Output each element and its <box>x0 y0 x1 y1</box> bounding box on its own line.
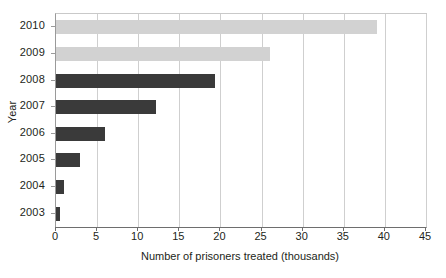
bar-row <box>56 174 426 201</box>
bar-2006 <box>56 127 105 141</box>
bar-2010 <box>56 20 377 34</box>
y-tick-label-2008: 2008 <box>20 73 45 85</box>
x-tick-label-10: 10 <box>131 230 143 242</box>
bar-2005 <box>56 153 80 167</box>
x-tick-label-15: 15 <box>172 230 184 242</box>
y-tick-label-2010: 2010 <box>20 19 45 31</box>
x-tick-label-35: 35 <box>337 230 349 242</box>
x-tick-label-0: 0 <box>52 230 58 242</box>
bar-2003 <box>56 207 60 221</box>
x-axis-title: Number of prisoners treated (thousands) <box>55 250 425 262</box>
y-tick-mark-2004 <box>51 186 55 187</box>
x-tick-label-20: 20 <box>213 230 225 242</box>
x-axis-tick-labels: 051015202530354045 <box>55 230 425 246</box>
y-tick-label-2004: 2004 <box>20 179 45 191</box>
bar-row <box>56 200 426 227</box>
x-tick-label-5: 5 <box>93 230 99 242</box>
y-tick-mark-2006 <box>51 133 55 134</box>
y-tick-label-2006: 2006 <box>20 126 45 138</box>
y-tick-mark-2005 <box>51 159 55 160</box>
y-tick-mark-2009 <box>51 53 55 54</box>
bar-row <box>56 67 426 94</box>
x-tick-label-40: 40 <box>378 230 390 242</box>
y-tick-label-2003: 2003 <box>20 206 45 218</box>
bar-row <box>56 121 426 148</box>
bar-row <box>56 14 426 41</box>
y-tick-label-2005: 2005 <box>20 152 45 164</box>
y-tick-label-2009: 2009 <box>20 46 45 58</box>
bar-chart-figure: 20102009200820072006200520042003 Year 05… <box>0 0 446 278</box>
bar-row <box>56 94 426 121</box>
x-tick-label-45: 45 <box>419 230 431 242</box>
bar-2004 <box>56 180 64 194</box>
y-tick-mark-2003 <box>51 213 55 214</box>
y-axis-title: Year <box>6 82 18 142</box>
gridline-45 <box>426 14 427 227</box>
y-tick-mark-2007 <box>51 106 55 107</box>
bar-row <box>56 41 426 68</box>
bar-row <box>56 147 426 174</box>
y-tick-label-2007: 2007 <box>20 99 45 111</box>
bar-2007 <box>56 100 156 114</box>
x-tick-label-25: 25 <box>254 230 266 242</box>
bar-2009 <box>56 47 270 61</box>
x-tick-label-30: 30 <box>296 230 308 242</box>
bar-2008 <box>56 74 215 88</box>
y-tick-mark-2010 <box>51 26 55 27</box>
y-tick-mark-2008 <box>51 80 55 81</box>
plot-area <box>55 13 427 228</box>
